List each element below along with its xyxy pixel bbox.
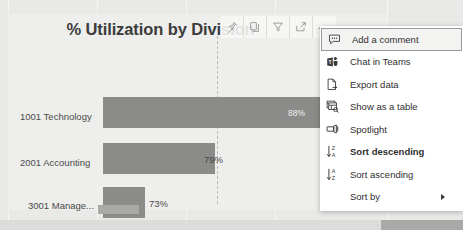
filter-icon[interactable] bbox=[267, 16, 290, 38]
menu-item-label: Sort ascending bbox=[345, 169, 413, 180]
bar-value-label: 88% bbox=[288, 109, 305, 118]
focus-mode-icon[interactable] bbox=[290, 16, 313, 38]
horizontal-scrollbar[interactable] bbox=[0, 220, 463, 230]
menu-item-spotlight[interactable]: Spotlight bbox=[320, 118, 463, 141]
svg-text:Z: Z bbox=[332, 146, 336, 152]
copy-icon[interactable] bbox=[244, 16, 267, 38]
export-data-icon bbox=[326, 77, 345, 91]
menu-item-sort-descending[interactable]: Z A Sort descending bbox=[320, 141, 463, 164]
comment-icon bbox=[328, 32, 347, 46]
svg-text:A: A bbox=[332, 152, 336, 158]
menu-item-sort-by[interactable]: Sort by bbox=[320, 186, 463, 209]
report-canvas: % Utilization by Division bbox=[0, 0, 463, 230]
svg-text:A: A bbox=[332, 168, 336, 174]
svg-text:Z: Z bbox=[332, 175, 336, 181]
category-label: 3001 Manage... bbox=[28, 201, 94, 211]
menu-item-label: Add a comment bbox=[347, 34, 419, 45]
spotlight-icon bbox=[326, 122, 345, 136]
chevron-right-icon bbox=[441, 194, 445, 200]
sort-ascending-icon: A Z bbox=[326, 167, 345, 181]
bar-value-label: 73% bbox=[149, 199, 168, 209]
menu-item-label: Spotlight bbox=[345, 124, 387, 135]
menu-item-label: Show as a table bbox=[345, 101, 418, 112]
menu-item-show-as-a-table[interactable]: Show as a table bbox=[320, 96, 463, 119]
table-icon bbox=[326, 100, 345, 114]
pin-icon[interactable] bbox=[221, 16, 244, 38]
menu-item-label: Export data bbox=[345, 79, 399, 90]
page-strip-block bbox=[98, 205, 139, 214]
menu-item-sort-ascending[interactable]: A Z Sort ascending bbox=[320, 163, 463, 186]
category-label: 1001 Technology bbox=[20, 112, 92, 122]
menu-item-chat-in-teams[interactable]: T Chat in Teams bbox=[320, 51, 463, 74]
menu-item-add-a-comment[interactable]: Add a comment bbox=[321, 28, 462, 51]
sort-descending-icon: Z A bbox=[326, 145, 345, 159]
menu-item-label: Sort descending bbox=[345, 146, 424, 157]
bar-2001-accounting[interactable] bbox=[103, 143, 215, 174]
horizontal-scrollbar-thumb[interactable] bbox=[381, 220, 463, 230]
menu-item-label: Chat in Teams bbox=[345, 56, 411, 67]
menu-item-label: Sort by bbox=[326, 191, 380, 202]
visual-toolbar[interactable]: ... bbox=[221, 16, 336, 38]
category-label: 2001 Accounting bbox=[20, 158, 90, 168]
bar-value-label: 79% bbox=[204, 155, 223, 165]
menu-item-export-data[interactable]: Export data bbox=[320, 73, 463, 96]
teams-icon: T bbox=[326, 55, 345, 69]
context-menu[interactable]: Add a comment T Chat in Teams bbox=[320, 26, 463, 211]
